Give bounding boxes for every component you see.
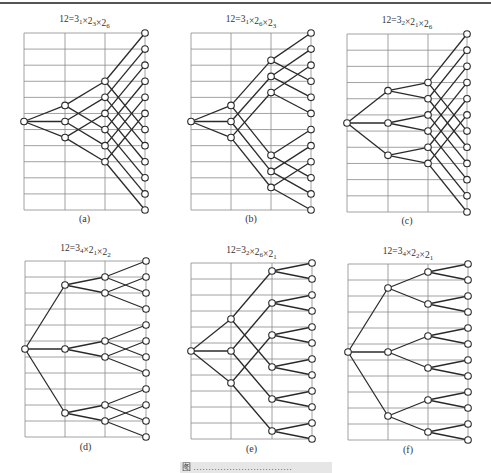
- panel-label: (c): [401, 215, 412, 227]
- trellis-node: [465, 373, 472, 380]
- trellis-node: [309, 372, 316, 379]
- trellis-edge: [388, 147, 428, 155]
- trellis-edge: [272, 367, 312, 375]
- trellis-edge: [231, 122, 271, 172]
- trellis-node: [309, 308, 316, 315]
- trellis-node: [228, 102, 235, 109]
- trellis-node: [464, 112, 471, 119]
- trellis-node: [143, 434, 150, 441]
- trellis-node: [308, 110, 315, 117]
- trellis-edge: [272, 271, 312, 279]
- trellis-edge: [65, 341, 105, 349]
- trellis-node: [465, 309, 472, 316]
- trellis-edge: [428, 264, 468, 272]
- trellis-node: [425, 144, 432, 151]
- trellis-node: [308, 142, 315, 149]
- trellis-node: [142, 126, 149, 133]
- trellis-node: [269, 332, 276, 339]
- trellis-node: [143, 274, 150, 281]
- trellis-edge: [65, 349, 105, 357]
- panel-f: 12=34×22×21(f): [345, 246, 472, 456]
- trellis-edge: [105, 325, 146, 341]
- edges: [347, 34, 467, 212]
- trellis-edge: [65, 285, 105, 293]
- trellis-node: [268, 152, 275, 159]
- trellis-node: [309, 292, 316, 299]
- trellis-edge: [272, 327, 312, 335]
- trellis-node: [142, 191, 149, 198]
- trellis-edge: [272, 423, 312, 431]
- panel-title: 12=31×26×23: [226, 14, 277, 30]
- trellis-edge: [65, 81, 105, 105]
- trellis-node: [465, 357, 472, 364]
- trellis-node: [425, 269, 432, 276]
- trellis-node: [344, 120, 351, 127]
- trellis-node: [268, 57, 275, 64]
- trellis-node: [142, 62, 149, 69]
- trellis-node: [102, 290, 109, 297]
- trellis-node: [308, 46, 315, 53]
- trellis-node: [465, 405, 472, 412]
- trellis-edge: [191, 319, 231, 351]
- trellis-edge: [271, 33, 311, 60]
- trellis-node: [62, 410, 69, 417]
- trellis-node: [465, 389, 472, 396]
- trellis-edge: [272, 359, 312, 367]
- trellis-node: [425, 301, 432, 308]
- trellis-edge: [105, 261, 146, 277]
- trellis-node: [268, 184, 275, 191]
- trellis-edge: [348, 352, 388, 416]
- trellis-node: [464, 95, 471, 102]
- trellis-node: [142, 94, 149, 101]
- trellis-node: [309, 388, 316, 395]
- trellis-node: [465, 341, 472, 348]
- trellis-edge: [388, 91, 428, 99]
- trellis-node: [385, 87, 392, 94]
- trellis-node: [464, 31, 471, 38]
- trellis-node: [102, 274, 109, 281]
- trellis-node: [309, 260, 316, 267]
- trellis-edge: [272, 391, 312, 399]
- trellis-node: [425, 160, 432, 167]
- panel-a: 12=31×23×26(a): [21, 14, 149, 225]
- edges: [25, 261, 146, 437]
- trellis-node: [465, 277, 472, 284]
- trellis-edge: [231, 138, 271, 188]
- trellis-edge: [25, 285, 65, 349]
- trellis-edge: [65, 138, 105, 162]
- trellis-node: [102, 354, 109, 361]
- trellis-edge: [347, 91, 388, 123]
- trellis-edge: [272, 399, 312, 407]
- edges: [24, 33, 145, 210]
- trellis-node: [143, 338, 150, 345]
- trellis-node: [309, 420, 316, 427]
- panel-label: (d): [80, 441, 92, 453]
- trellis-node: [228, 118, 235, 125]
- trellis-node: [308, 62, 315, 69]
- panel-title: 12=31×23×26: [59, 14, 110, 30]
- trellis-edge: [65, 405, 105, 413]
- trellis-edge: [105, 293, 146, 309]
- figure-caption: 图 ……………………………: [180, 462, 332, 473]
- trellis-node: [142, 110, 149, 117]
- trellis-node: [425, 95, 432, 102]
- edges: [191, 33, 311, 210]
- trellis-node: [425, 112, 432, 119]
- trellis-node: [309, 356, 316, 363]
- trellis-edge: [191, 351, 231, 383]
- trellis-node: [465, 437, 472, 444]
- trellis-node: [385, 120, 392, 127]
- trellis-node: [102, 158, 109, 165]
- trellis-node: [143, 354, 150, 361]
- trellis-node: [143, 418, 150, 425]
- trellis-node: [425, 429, 432, 436]
- trellis-node: [385, 413, 392, 420]
- trellis-node: [228, 380, 235, 387]
- panel-title: 12=34×21×22: [60, 243, 111, 259]
- panel-d: 12=34×21×22(d): [22, 243, 150, 453]
- panel-label: (a): [79, 213, 90, 225]
- trellis-node: [308, 126, 315, 133]
- trellis-edge: [272, 263, 312, 271]
- trellis-node: [269, 300, 276, 307]
- trellis-node: [143, 370, 150, 377]
